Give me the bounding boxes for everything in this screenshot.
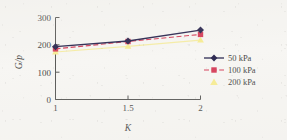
legend-label-100-kpa: 100 kPa xyxy=(228,65,256,75)
legend: 50 kPa 100 kPa 200 kPa xyxy=(204,53,256,87)
axis-group xyxy=(56,18,201,100)
legend-item-200-kpa[interactable]: 200 kPa xyxy=(210,77,256,87)
x-tick-label-2: 2 xyxy=(198,103,203,113)
y-axis-title: G/p xyxy=(14,55,24,70)
y-tick-label-0: 0 xyxy=(47,95,52,105)
chart-screenshot: 300 200 100 0 1 1.5 2 G/p K xyxy=(0,0,287,140)
x-tick-label-1: 1 xyxy=(53,103,58,113)
legend-item-50-kpa[interactable]: 50 kPa xyxy=(204,53,252,63)
series-200-kpa-marker-3 xyxy=(197,37,204,43)
legend-marker-200-kpa xyxy=(210,79,218,85)
legend-marker-50-kpa xyxy=(211,55,218,62)
legend-label-200-kpa: 200 kPa xyxy=(228,77,256,87)
x-axis-title: K xyxy=(124,123,132,133)
legend-marker-100-kpa xyxy=(211,67,216,72)
line-chart: 300 200 100 0 1 1.5 2 G/p K xyxy=(0,0,287,140)
x-tick-label-1point5: 1.5 xyxy=(122,103,134,113)
legend-label-50-kpa: 50 kPa xyxy=(228,53,252,63)
y-tick-label-200: 200 xyxy=(38,40,52,50)
y-tick-label-300: 300 xyxy=(38,13,52,23)
y-tick-label-100: 100 xyxy=(38,68,52,78)
legend-item-100-kpa[interactable]: 100 kPa xyxy=(204,65,256,75)
